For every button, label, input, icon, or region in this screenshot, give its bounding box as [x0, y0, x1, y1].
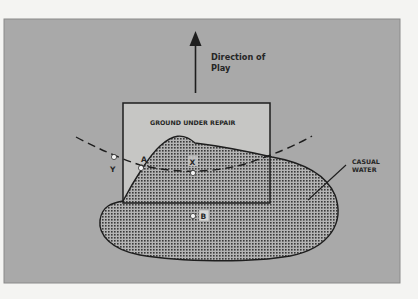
point-b-label: B — [201, 212, 207, 221]
casual-water-label-line2: WATER — [352, 166, 377, 173]
ground-under-repair-label: GROUND UNDER REPAIR — [150, 119, 236, 126]
point-b-marker — [190, 213, 195, 218]
casual-water-label: CASUAL — [352, 158, 380, 165]
point-a-marker — [138, 165, 143, 170]
point-y-marker — [111, 154, 116, 159]
point-x-marker — [190, 170, 195, 175]
direction-of-play-label: Direction of — [211, 52, 266, 62]
point-a-label: A — [141, 155, 147, 164]
golf-rules-diagram: Direction of Play GROUND UNDER REPAIR CA… — [0, 0, 418, 299]
point-x-label: X — [190, 158, 196, 167]
direction-of-play-label-line2: Play — [211, 63, 231, 73]
point-y-label: Y — [109, 165, 116, 174]
